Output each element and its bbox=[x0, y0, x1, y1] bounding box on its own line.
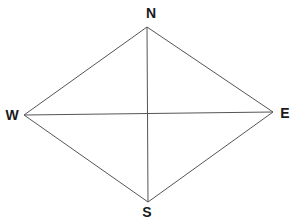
compass-label-south: S bbox=[142, 205, 151, 219]
rhombus-compass-figure bbox=[0, 0, 292, 224]
rhombus-edge-sw bbox=[24, 115, 148, 202]
rhombus-edge-wn bbox=[24, 27, 147, 115]
rhombus-diagonal-ns bbox=[147, 27, 148, 202]
rhombus-edge-es bbox=[148, 112, 273, 202]
rhombus-diagonal-we bbox=[24, 112, 273, 115]
compass-label-east: E bbox=[280, 106, 289, 120]
compass-diagram-canvas: N E S W bbox=[0, 0, 292, 224]
compass-label-west: W bbox=[5, 108, 18, 122]
compass-label-north: N bbox=[146, 6, 156, 20]
rhombus-edge-ne bbox=[147, 27, 273, 112]
